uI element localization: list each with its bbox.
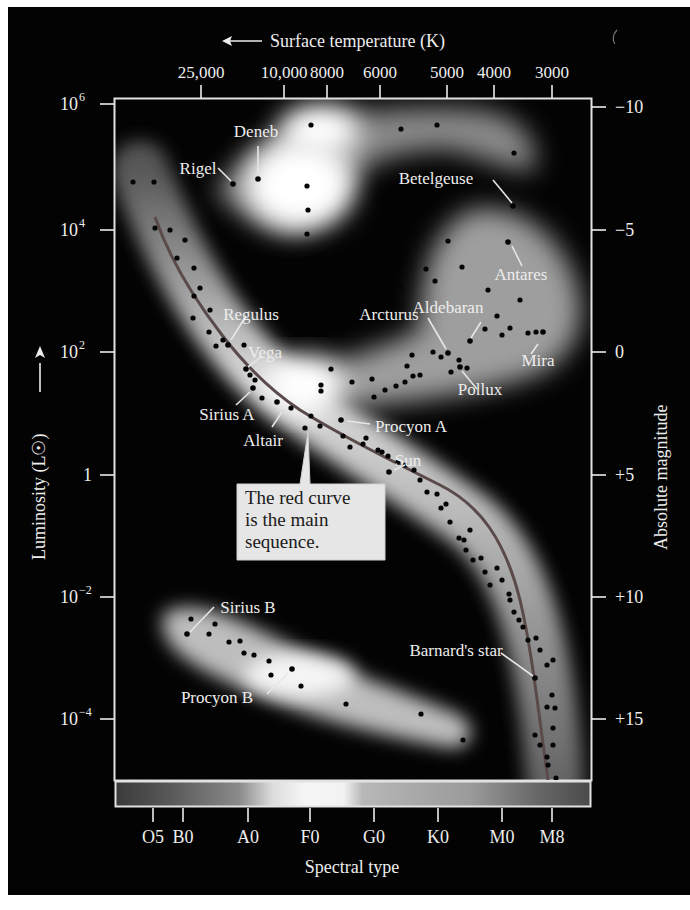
star-dot — [507, 597, 512, 602]
star-dot — [438, 354, 443, 359]
left-axis-tick-label: 10 — [60, 94, 78, 114]
star-label: Altair — [243, 431, 283, 450]
spectral-type-tick-label: B0 — [172, 827, 193, 847]
star-dot — [525, 637, 530, 642]
left-axis-tick-label: 10 — [60, 342, 78, 362]
star-dot-aldebaran — [467, 338, 473, 344]
star-dot — [511, 150, 516, 155]
star-dot — [340, 433, 345, 438]
star-dot — [447, 519, 452, 524]
spectral-type-tick-label: M0 — [489, 827, 514, 847]
right-axis-tick-label: +10 — [615, 587, 643, 607]
star-dot-sirius-a — [250, 385, 256, 391]
bottom-axis-label: Spectral type — [305, 857, 399, 877]
star-dot — [252, 377, 257, 382]
supergiant-core — [245, 140, 355, 230]
star-dot — [398, 126, 403, 131]
star-dot — [532, 732, 537, 737]
star-dot — [206, 329, 211, 334]
spectral-type-tick-label: M8 — [539, 827, 564, 847]
star-dot — [402, 379, 407, 384]
tick-exponent: −2 — [79, 583, 92, 597]
star-dot — [241, 650, 246, 655]
left-axis-tick-label: 10 — [60, 220, 78, 240]
star-dot — [347, 444, 352, 449]
star-dot-rigel — [230, 181, 236, 187]
star-dot-deneb — [255, 176, 261, 182]
star-dot — [151, 179, 156, 184]
right-axis-tick-label: +15 — [615, 709, 643, 729]
spectral-type-tick-label: G0 — [363, 827, 385, 847]
star-dot — [550, 657, 555, 662]
star-dot — [487, 582, 492, 587]
star-dot — [494, 565, 499, 570]
star-dot-betelgeuse — [510, 203, 516, 209]
tick-exponent: 2 — [79, 338, 85, 352]
top-axis-tick-label: 4000 — [477, 63, 511, 82]
star-dot — [371, 394, 376, 399]
star-dot — [459, 264, 464, 269]
star-dot — [438, 505, 443, 510]
star-dot — [445, 238, 450, 243]
star-label: Barnard's star — [409, 641, 503, 660]
star-label: Antares — [495, 265, 548, 284]
star-dot — [432, 278, 437, 283]
star-dot — [448, 369, 453, 374]
star-dot-sirius-b — [184, 631, 190, 637]
star-dot — [288, 405, 293, 410]
star-dot — [463, 547, 468, 552]
star-dot — [308, 122, 313, 127]
star-dot — [544, 662, 549, 667]
star-dot — [197, 285, 202, 290]
star-dot — [305, 207, 310, 212]
star-dot — [188, 616, 193, 621]
star-label: Sirius A — [199, 405, 255, 424]
star-dot-antares — [505, 239, 511, 245]
tick-exponent: −4 — [79, 705, 92, 719]
star-dot — [443, 501, 448, 506]
star-dot — [537, 742, 542, 747]
star-label: Deneb — [234, 122, 278, 141]
star-dot — [212, 621, 217, 626]
star-dot-barnard-s-star — [532, 675, 538, 681]
star-dot — [470, 557, 475, 562]
star-dot — [191, 265, 196, 270]
up-arrow-icon — [35, 346, 45, 358]
star-dot — [379, 449, 384, 454]
top-axis-tick-label: 3000 — [535, 63, 569, 82]
star-dot — [544, 704, 549, 709]
star-dot-altair — [274, 399, 280, 405]
label-line — [493, 180, 512, 203]
star-dot — [511, 609, 516, 614]
star-dot — [206, 631, 211, 636]
star-dot — [537, 647, 542, 652]
star-dot — [396, 283, 401, 288]
right-axis-tick-label: −10 — [615, 97, 643, 117]
star-label: Aldebaran — [413, 298, 484, 317]
star-dot — [251, 652, 256, 657]
star-dot — [259, 395, 264, 400]
star-dot — [552, 705, 557, 710]
star-dot — [545, 762, 550, 767]
star-dot-regulus — [225, 342, 231, 348]
star-dot — [456, 535, 461, 540]
star-dot — [423, 266, 428, 271]
star-dot — [461, 537, 466, 542]
star-dot-pollux — [457, 364, 463, 370]
star-dot — [456, 357, 461, 362]
star-dot — [207, 307, 212, 312]
star-dot — [247, 372, 252, 377]
star-dot — [190, 315, 195, 320]
star-label: Mira — [521, 351, 555, 370]
star-dot — [434, 491, 439, 496]
star-dot — [520, 624, 525, 629]
star-dot — [533, 329, 538, 334]
star-dot — [550, 725, 555, 730]
star-label: Arcturus — [359, 305, 418, 324]
star-dot — [417, 477, 422, 482]
tick-exponent: 4 — [79, 216, 85, 230]
star-dot — [482, 326, 487, 331]
star-dot-procyon-a — [338, 417, 344, 423]
star-dot — [130, 179, 135, 184]
star-dot — [525, 330, 530, 335]
